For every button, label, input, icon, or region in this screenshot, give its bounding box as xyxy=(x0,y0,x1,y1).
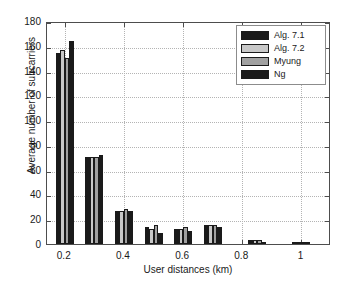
y-tick-mark xyxy=(47,147,51,148)
bar xyxy=(128,211,133,244)
legend-swatch-icon xyxy=(241,31,269,40)
y-tick-mark xyxy=(47,73,51,74)
y-tick-mark xyxy=(47,221,51,222)
figure-canvas: 020406080100120140160180 0.20.40.60.81 A… xyxy=(0,0,345,289)
x-tick-label: 0.4 xyxy=(103,251,143,261)
legend-swatch-icon xyxy=(241,44,269,53)
legend-item-label: Myung xyxy=(274,57,301,66)
legend-item[interactable]: Myung xyxy=(241,55,321,68)
bar xyxy=(188,231,193,244)
x-tick-label: 0.8 xyxy=(221,251,261,261)
y-tick-mark xyxy=(325,196,329,197)
legend-item-label: Alg. 7.1 xyxy=(274,31,305,40)
y-tick-mark xyxy=(47,122,51,123)
y-tick-mark xyxy=(325,23,329,24)
y-axis-title: Average number of subcarriers xyxy=(26,1,37,211)
y-tick-mark xyxy=(47,196,51,197)
x-tick-mark xyxy=(124,23,125,27)
gridline-horizontal xyxy=(47,147,329,148)
legend-item-label: Ng xyxy=(274,70,286,79)
y-tick-mark xyxy=(47,97,51,98)
y-tick-label: 20 xyxy=(7,215,41,225)
x-axis-title: User distances (km) xyxy=(46,264,330,275)
bar xyxy=(69,41,74,244)
legend-item-label: Alg. 7.2 xyxy=(274,44,305,53)
y-tick-mark xyxy=(325,147,329,148)
y-tick-mark xyxy=(47,172,51,173)
y-tick-mark xyxy=(47,23,51,24)
x-tick-mark xyxy=(242,240,243,244)
legend-swatch-icon xyxy=(241,57,269,66)
y-tick-mark xyxy=(325,221,329,222)
legend-swatch-icon xyxy=(241,70,269,79)
chart-legend: Alg. 7.1Alg. 7.2MyungNg xyxy=(236,25,326,85)
bar xyxy=(262,242,267,244)
x-tick-label: 0.6 xyxy=(162,251,202,261)
x-tick-mark xyxy=(183,23,184,27)
y-tick-mark xyxy=(325,172,329,173)
bar xyxy=(158,233,163,244)
gridline-vertical xyxy=(183,23,184,244)
x-tick-mark xyxy=(65,23,66,27)
legend-item[interactable]: Alg. 7.1 xyxy=(241,29,321,42)
gridline-horizontal xyxy=(47,97,329,98)
legend-item[interactable]: Ng xyxy=(241,68,321,81)
y-tick-mark xyxy=(325,122,329,123)
x-tick-label: 1 xyxy=(280,251,320,261)
bar xyxy=(306,242,311,244)
y-tick-label: 0 xyxy=(7,240,41,250)
bar xyxy=(217,227,222,244)
x-tick-label: 0.2 xyxy=(44,251,84,261)
legend-item[interactable]: Alg. 7.2 xyxy=(241,42,321,55)
bar xyxy=(99,155,104,244)
y-tick-mark xyxy=(325,97,329,98)
gridline-horizontal xyxy=(47,122,329,123)
y-tick-mark xyxy=(47,48,51,49)
